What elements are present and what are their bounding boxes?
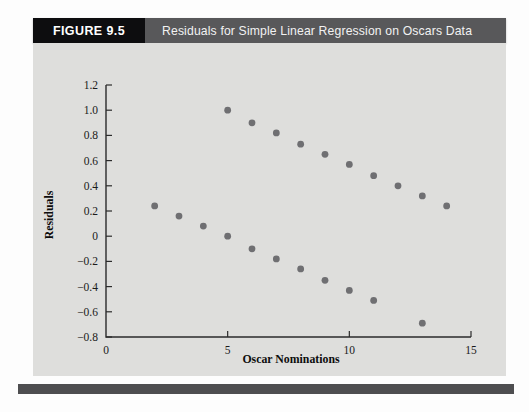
y-tick-label: 1.2 [84,79,99,91]
y-tick-label: −0.2 [77,255,98,267]
y-tick-label: −0.6 [77,306,98,318]
scatter-plot: −0.8−0.6−0.4−0.200.20.40.60.81.01.2 0510… [33,43,506,376]
axis-lines [106,85,471,337]
x-axis-tick-marks [228,331,471,337]
data-point [346,287,353,294]
x-tick-label: 15 [465,344,477,356]
data-point [273,255,280,262]
y-tick-label: 0.6 [84,155,99,167]
y-axis-tick-labels: −0.8−0.6−0.4−0.200.20.40.60.81.01.2 [77,79,98,343]
figure-footer-bar [18,384,514,394]
figure-container: FIGURE 9.5 Residuals for Simple Linear R… [0,0,529,412]
data-point [419,192,426,199]
data-point [224,233,231,240]
data-point [151,203,158,210]
y-tick-label: −0.4 [77,281,98,293]
y-axis-title: Residuals [42,190,56,239]
data-point [443,203,450,210]
data-point [273,129,280,136]
data-point [249,119,256,126]
figure-title-bar: FIGURE 9.5 Residuals for Simple Linear R… [33,18,506,43]
y-tick-label: 0.4 [84,180,99,192]
data-point [346,161,353,168]
y-axis-tick-marks [106,85,112,337]
data-point [176,213,183,220]
x-tick-label: 0 [103,344,109,356]
data-points-layer [151,107,450,327]
data-point [249,245,256,252]
data-point [322,151,329,158]
data-point [200,223,207,230]
data-point [370,172,377,179]
data-point [297,266,304,273]
y-tick-label: 0.8 [84,129,99,141]
y-tick-label: 1.0 [84,104,99,116]
figure-number-label: FIGURE 9.5 [33,18,145,43]
data-point [322,277,329,284]
data-point [395,182,402,189]
x-axis-title: Oscar Nominations [242,352,340,366]
y-tick-label: 0 [92,230,98,242]
y-tick-label: −0.8 [77,331,98,343]
data-point [370,297,377,304]
y-tick-label: 0.2 [84,205,99,217]
x-tick-label: 10 [344,344,356,356]
plot-panel: −0.8−0.6−0.4−0.200.20.40.60.81.01.2 0510… [33,43,506,376]
data-point [419,320,426,327]
data-point [224,107,231,114]
data-point [297,141,304,148]
x-tick-label: 5 [225,344,231,356]
figure-caption: Residuals for Simple Linear Regression o… [145,18,506,43]
